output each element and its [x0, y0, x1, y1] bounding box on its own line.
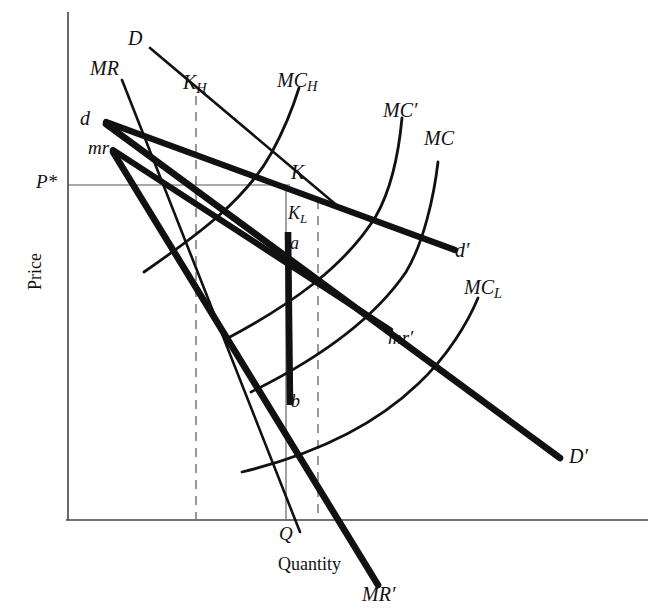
curve-label-d-prime: d′ — [455, 240, 469, 260]
curve-label-MC: MC — [424, 128, 454, 148]
economics-diagram-figure: Price Quantity P* Q D MR d mr KH MCH MC′… — [0, 0, 656, 612]
diagram-canvas — [0, 0, 656, 612]
curve-label-mr-prime: mr′ — [388, 328, 413, 347]
curve-label-mr: mr — [88, 138, 109, 157]
point-label-K-low-sub: L — [300, 211, 307, 226]
curve-label-MC-low: MCL — [464, 277, 502, 300]
segment-a-to-b — [288, 232, 290, 405]
point-label-a: a — [290, 234, 299, 252]
price-star-tick-label: P* — [36, 172, 57, 191]
curve-label-MC-low-base: MC — [464, 276, 494, 298]
point-label-K: K — [291, 162, 304, 182]
y-axis-label: Price — [26, 253, 44, 290]
x-axis-label: Quantity — [278, 555, 341, 573]
curve-label-MC-prime: MC′ — [383, 100, 417, 120]
curve-label-MC-high-sub: H — [307, 78, 317, 94]
point-label-K-low: KL — [288, 204, 307, 226]
curve-label-K-high-sub: H — [196, 80, 206, 96]
curve-label-MC-high: MCH — [277, 70, 317, 93]
curve-MC — [251, 162, 438, 392]
curve-label-K-high-base: K — [183, 71, 196, 93]
curve-label-D-prime: D′ — [569, 446, 588, 466]
quantity-tick-label: Q — [279, 524, 293, 543]
curve-label-MR-prime: MR′ — [362, 584, 395, 604]
curve-label-MC-low-sub: L — [494, 285, 502, 301]
curve-label-d: d — [80, 108, 90, 128]
curve-MC-prime — [228, 118, 402, 338]
curve-label-D: D — [128, 28, 142, 48]
point-label-K-low-base: K — [288, 203, 300, 223]
curve-label-MC-high-base: MC — [277, 69, 307, 91]
point-label-b: b — [291, 392, 300, 410]
curve-label-MR: MR — [90, 58, 119, 78]
curve-label-K-high-guide: KH — [183, 72, 207, 95]
